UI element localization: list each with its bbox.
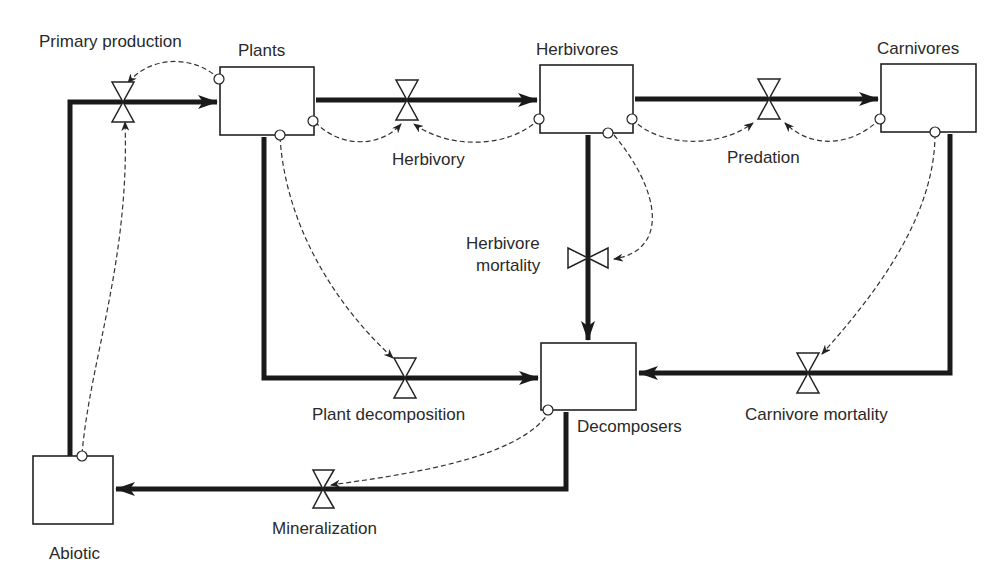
flow-label-herbivore-mortality-line2: mortality [476,256,540,276]
port-herbivores-bottom [603,128,613,138]
link-abiotic-to-primary-production [82,122,125,454]
flow-label-primary-production: Primary production [39,32,182,52]
flow-carnivore-mortality [639,134,950,373]
link-carnivores-to-predation [785,119,880,141]
stock-plants-box[interactable] [220,67,314,135]
stock-label-herbivores: Herbivores [536,40,618,60]
flow-label-carnivore-mortality: Carnivore mortality [745,405,888,425]
port-decomposers-bottom [543,405,553,415]
port-plants-right [308,116,318,126]
stock-label-plants: Plants [238,41,285,61]
port-carnivores-left [875,114,885,124]
stock-herbivores-box[interactable] [540,65,633,133]
port-herbivores-right [627,114,637,124]
link-plants-to-plant-decomposition [280,137,393,358]
stock-abiotic-box[interactable] [33,456,113,524]
port-carnivores-bottom [930,127,940,137]
stock-label-decomposers: Decomposers [577,417,682,437]
flow-label-mineralization: Mineralization [272,519,377,539]
stock-decomposers-box[interactable] [541,343,636,410]
link-carnivores-to-carnivore-mortality [822,134,935,354]
link-herbivores-to-herbivory [414,119,539,142]
flow-primary-production [70,102,217,456]
stock-label-carnivores: Carnivores [877,39,959,59]
link-plants-to-primary-production [128,61,219,83]
port-herbivores-left [534,114,544,124]
port-abiotic-top [77,451,87,461]
flow-label-predation: Predation [727,148,800,168]
flow-label-herbivore-mortality-line1: Herbivore [466,234,540,254]
link-herbivores-to-predation [632,119,753,141]
stock-carnivores-box[interactable] [881,64,976,132]
port-plants-bottom [275,130,285,140]
stock-flow-diagram [0,0,1006,580]
port-plants-top [214,74,224,84]
stock-label-abiotic: Abiotic [49,544,100,564]
flow-label-herbivory: Herbivory [392,150,465,170]
link-plants-to-herbivory [315,122,401,142]
flow-label-plant-decomposition: Plant decomposition [312,405,465,425]
link-herbivores-to-herbivore-mortality [614,135,652,259]
